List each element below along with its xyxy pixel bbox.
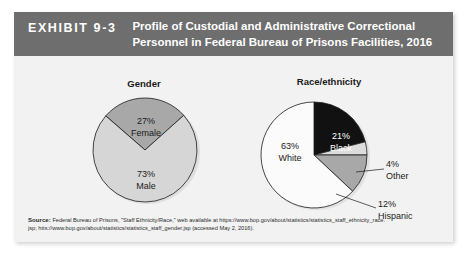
race-white-category: White: [278, 153, 301, 163]
exhibit-number-label: EXHIBIT 9-3: [28, 18, 116, 36]
race-slice-label-white: 63% White: [268, 141, 312, 164]
race-black-category: Black: [330, 143, 352, 153]
exhibit-title-line-1: Profile of Custodial and Administrative …: [132, 18, 439, 34]
race-black-percent: 21%: [332, 131, 350, 141]
source-note-line-2: jsp; htts://www.bop.gov/about/statistics…: [28, 224, 440, 232]
chart-area: Gender 27% Female 73% Male Race/ethnicit…: [14, 56, 453, 242]
race-hispanic-percent: 12%: [378, 199, 396, 209]
source-note: Source: Federal Bureau of Prisons, "Staf…: [28, 216, 440, 232]
exhibit-title-line-2: Personnel in Federal Bureau of Prisons F…: [132, 34, 439, 50]
race-slice-label-black: 21% Black: [317, 131, 365, 154]
exhibit-title: Profile of Custodial and Administrative …: [132, 18, 439, 50]
race-white-percent: 63%: [281, 141, 299, 151]
exhibit-card: EXHIBIT 9-3 Profile of Custodial and Adm…: [14, 12, 453, 242]
race-slice-label-other: 4% Other: [386, 159, 432, 182]
exhibit-figure: EXHIBIT 9-3 Profile of Custodial and Adm…: [0, 0, 467, 254]
source-text-1: Federal Bureau of Prisons, "Staff Ethnic…: [51, 217, 385, 223]
source-label: Source:: [28, 216, 51, 223]
race-other-percent: 4%: [386, 159, 399, 169]
race-other-category: Other: [386, 171, 409, 181]
source-note-line-1: Source: Federal Bureau of Prisons, "Staf…: [28, 216, 440, 224]
exhibit-header: EXHIBIT 9-3 Profile of Custodial and Adm…: [14, 12, 453, 56]
